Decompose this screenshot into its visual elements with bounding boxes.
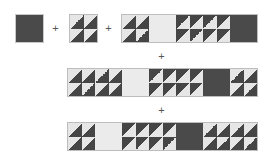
dark-square — [230, 15, 257, 42]
strip-row-1 — [121, 14, 258, 43]
blank-square — [149, 15, 176, 42]
strip-row-2 — [67, 68, 258, 97]
triangle-block-4x2 — [122, 123, 176, 150]
triangle-block-2x2 — [69, 14, 98, 43]
dark-square — [176, 123, 203, 150]
blank-square — [122, 69, 149, 96]
dark-square-block — [15, 14, 44, 43]
triangle-block-2x2 — [68, 123, 95, 150]
triangle-block-4x2 — [149, 69, 203, 96]
triangle-block-4x2 — [203, 123, 257, 150]
blank-square — [95, 123, 122, 150]
triangle-block-2x2 — [230, 69, 257, 96]
dark-square — [203, 69, 230, 96]
plus-sign: + — [103, 23, 114, 34]
plus-sign: + — [50, 23, 61, 34]
triangle-block-4x2 — [68, 69, 122, 96]
triangle-cell — [70, 15, 84, 29]
strip-row-3 — [67, 122, 258, 151]
triangle-cell — [70, 29, 84, 43]
triangle-cell — [84, 29, 98, 43]
triangle-cell — [84, 15, 98, 29]
plus-sign: + — [156, 51, 167, 62]
triangle-block-2x2 — [122, 15, 149, 42]
plus-sign: + — [156, 105, 167, 116]
triangle-block-4x2 — [176, 15, 230, 42]
